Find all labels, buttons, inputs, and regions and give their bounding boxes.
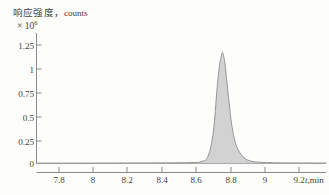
y-axis-multiplier-base: × 10 [17,21,34,31]
chromatogram-peak-fill [37,52,327,163]
x-tick-label-7.8: 7.8 [46,175,72,185]
x-tick-label-8.8: 8.8 [218,175,244,185]
x-tick-label-8.2: 8.2 [114,175,140,185]
y-tick-label-0: 0 [4,159,34,169]
y-tick-label-0.25: 0.25 [4,137,34,147]
y-tick-label-1: 1 [4,65,34,75]
y-axis-label: 响应强度，counts [13,5,88,19]
y-tick-label-0.5: 0.5 [4,113,34,123]
x-axis-title: t,min [305,175,324,185]
y-axis-multiplier-exponent: 6 [34,19,37,26]
chromatogram-figure: 响应强度，counts × 106 1.25 1 0.75 0.5 0.25 0… [0,0,329,195]
x-tick-label-8.6: 8.6 [183,175,209,185]
y-axis-multiplier: × 106 [17,19,37,31]
x-tick-label-8.4: 8.4 [149,175,175,185]
y-tick-label-0.75: 0.75 [4,89,34,99]
plot-canvas [0,0,329,195]
x-axis-title-unit: ,min [308,175,324,185]
x-tick-label-8: 8 [80,175,106,185]
y-axis-label-units: counts [64,8,88,18]
y-axis-label-separator: ， [54,7,64,18]
x-tick-label-9: 9 [252,175,278,185]
chromatogram-trace-line [37,52,327,163]
y-tick-label-1.25: 1.25 [4,41,34,51]
y-axis-label-cn: 响应强度 [13,7,54,18]
